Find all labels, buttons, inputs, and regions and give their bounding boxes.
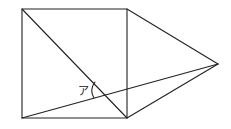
bottom-left-to-apex-line (22, 64, 218, 118)
triangle-upper-side (127, 9, 218, 64)
angle-label: ア (78, 85, 89, 98)
geometry-diagram: ア (0, 0, 231, 129)
triangle-lower-side (127, 64, 218, 118)
square-diagonal (22, 9, 127, 118)
